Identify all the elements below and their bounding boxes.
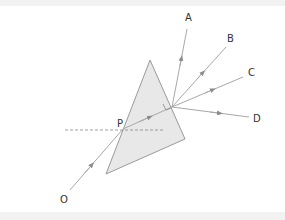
label-A: A [185, 12, 192, 23]
ray-A [172, 29, 187, 107]
label-C: C [248, 67, 255, 78]
ray-B-arrow [197, 73, 203, 80]
ray-C-arrow [205, 90, 213, 93]
prism-triangle [106, 60, 185, 174]
label-D: D [253, 113, 261, 124]
ray-D-arrow [210, 112, 220, 113]
prism-ray-diagram: A B C D P O [0, 0, 285, 220]
label-B: B [227, 33, 234, 44]
incident-ray-arrow [85, 165, 92, 173]
label-O: O [60, 194, 68, 205]
label-P: P [117, 118, 123, 129]
